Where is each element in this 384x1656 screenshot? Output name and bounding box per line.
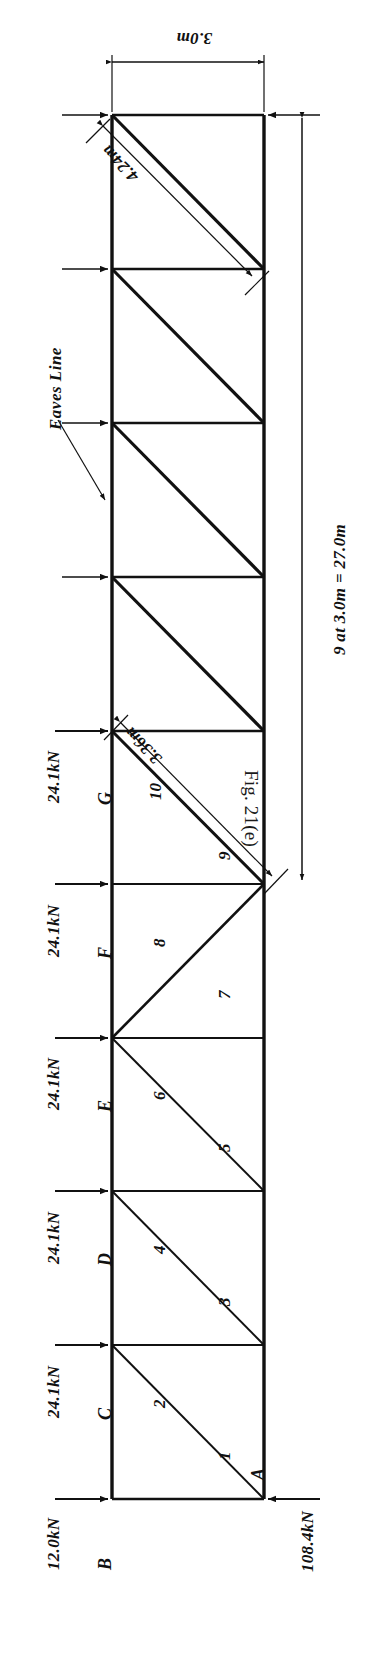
member-label-7: 7: [215, 991, 235, 1000]
member-label-8: 8: [150, 939, 170, 948]
member-label-2: 2: [150, 1400, 170, 1409]
reaction-label-A: 108.4kN: [298, 1511, 318, 1572]
member-label-3: 3: [215, 1298, 235, 1307]
node-label-B: B: [95, 1558, 116, 1570]
member-label-5: 5: [215, 1144, 235, 1153]
figure-caption: Fig. 21(e): [240, 770, 262, 847]
node-label-C: C: [95, 1408, 116, 1420]
dimension-label-panel-width: 3.0m: [176, 28, 212, 48]
node-label-D: D: [95, 1253, 116, 1266]
node-label-G: G: [95, 792, 116, 805]
node-label-F: F: [95, 947, 116, 959]
eaves-line-label: Eaves Line: [46, 347, 66, 430]
node-label-E: E: [95, 1100, 116, 1112]
member-label-1: 1: [215, 1452, 235, 1461]
load-label-D: 24.1kN: [44, 1212, 64, 1264]
load-label-C: 24.1kN: [44, 1366, 64, 1418]
dimension-panel-width: [112, 55, 264, 112]
load-label-B: 12.0kN: [44, 1518, 64, 1570]
member-label-9: 9: [215, 852, 235, 861]
load-label-F: 24.1kN: [44, 905, 64, 957]
load-label-G: 24.1kN: [44, 751, 64, 803]
eaves-line-leader: [58, 420, 105, 500]
dimension-label-overall-span: 9 at 3.0m = 27.0m: [330, 524, 350, 655]
member-label-10: 10: [146, 783, 166, 800]
member-label-4: 4: [150, 1246, 170, 1255]
load-label-E: 24.1kN: [44, 1058, 64, 1110]
figure-root: Fig. 21(e) 3.0m 4.24m 3.36m 9 at 3.0m = …: [0, 0, 384, 1656]
member-label-6: 6: [150, 1092, 170, 1101]
node-label-A: A: [248, 1468, 269, 1480]
load-arrows: [55, 115, 108, 1499]
